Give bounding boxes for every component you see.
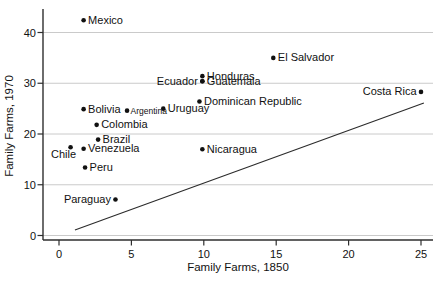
y-tick-label-40: 40 <box>24 27 36 39</box>
y-tick-label-30: 30 <box>24 77 36 89</box>
point-label-venezuela: Venezuela <box>88 142 140 154</box>
data-point-colombia <box>94 123 99 128</box>
point-label-argentina: Argentina <box>131 106 168 116</box>
point-label-peru: Peru <box>90 161 113 173</box>
point-label-bolivia: Bolivia <box>88 103 121 115</box>
data-point-el-salvador <box>271 56 276 61</box>
data-point-bolivia <box>81 107 86 112</box>
scatter-plot-canvas: 0510152025010203040 MexicoEl SalvadorHon… <box>0 0 441 287</box>
x-tick-label-20: 20 <box>342 248 354 260</box>
point-label-el-salvador: El Salvador <box>278 51 335 63</box>
scatter-chart: 0510152025010203040 MexicoEl SalvadorHon… <box>0 0 441 287</box>
data-point-brazil <box>96 137 101 142</box>
x-tick-label-25: 25 <box>415 248 427 260</box>
point-label-uruguay: Uruguay <box>168 102 210 114</box>
data-point-venezuela <box>81 146 86 151</box>
data-point-nicaragua <box>200 147 205 152</box>
data-point-mexico <box>81 18 86 23</box>
point-label-costa-rica: Costa Rica <box>363 85 418 97</box>
point-label-nicaragua: Nicaragua <box>207 143 258 155</box>
x-tick-label-5: 5 <box>128 248 134 260</box>
x-tick-label-10: 10 <box>198 248 210 260</box>
gridlines <box>43 33 433 236</box>
y-axis-title: Family Farms, 1970 <box>3 75 15 177</box>
y-tick-label-20: 20 <box>24 128 36 140</box>
y-tick-label-0: 0 <box>30 230 36 242</box>
data-points-layer: MexicoEl SalvadorHondurasEcuadorGuatemal… <box>51 14 423 205</box>
point-label-guatemala: Guatemala <box>207 75 262 87</box>
point-label-paraguay: Paraguay <box>64 193 112 205</box>
data-point-costa-rica <box>419 90 424 95</box>
data-point-paraguay <box>113 197 118 202</box>
point-label-mexico: Mexico <box>88 14 123 26</box>
data-point-argentina <box>125 108 130 113</box>
x-tick-label-15: 15 <box>270 248 282 260</box>
point-label-chile: Chile <box>51 148 76 160</box>
data-point-guatemala <box>200 79 205 84</box>
point-label-ecuador: Ecuador <box>157 75 198 87</box>
point-label-colombia: Colombia <box>101 118 148 130</box>
x-axis-title: Family Farms, 1850 <box>187 261 289 273</box>
x-tick-label-0: 0 <box>56 248 62 260</box>
data-point-peru <box>83 165 88 170</box>
point-label-dominican-republic: Dominican Republic <box>204 95 302 107</box>
y-tick-label-10: 10 <box>24 179 36 191</box>
data-point-honduras <box>200 74 205 79</box>
